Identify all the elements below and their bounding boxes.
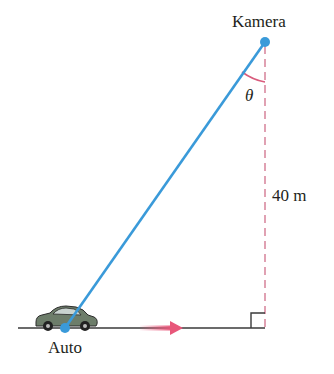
sight-line [65,42,265,328]
angle-arc [242,72,265,82]
motion-arrow-icon [140,321,183,335]
camera-point [260,37,270,47]
car-point [60,323,70,333]
height-label: 40 m [272,186,306,206]
right-angle-marker [251,313,265,328]
camera-label: Kamera [232,12,286,32]
angle-label: θ [245,86,253,106]
car-label: Auto [48,338,82,358]
